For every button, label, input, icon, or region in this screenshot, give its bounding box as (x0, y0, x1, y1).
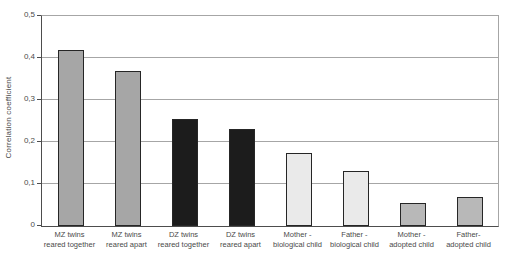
bar-4 (229, 129, 255, 226)
x-axis-label-line1: Father - (326, 230, 383, 240)
y-tick-label: 0,5 (5, 11, 35, 19)
y-tick-label: 0,3 (5, 95, 35, 103)
bar-chart: Correlation coefficient MZ twinsreared t… (0, 0, 507, 261)
bar-6 (343, 171, 369, 226)
y-tick-mark (37, 141, 41, 142)
gridline (42, 57, 498, 58)
x-axis-label-line2: reared apart (98, 240, 155, 250)
y-axis-title: Correlation coefficient (4, 48, 13, 188)
x-axis-label-line2: reared together (155, 240, 212, 250)
x-axis-label-line2: adopted child (383, 240, 440, 250)
x-axis-label: MZ twinsreared apart (98, 230, 155, 249)
bar-2 (115, 71, 141, 226)
bar-3 (172, 119, 198, 226)
x-axis-label-line1: Mother - (269, 230, 326, 240)
bar-5 (286, 153, 312, 227)
y-tick-mark (37, 15, 41, 16)
x-axis-label: DZ twinsreared apart (212, 230, 269, 249)
y-tick-mark (37, 57, 41, 58)
x-axis-label-line1: Father- (440, 230, 497, 240)
x-axis-label-line2: biological child (326, 240, 383, 250)
x-axis-label: Mother -adopted child (383, 230, 440, 249)
x-axis-label: Mother -biological child (269, 230, 326, 249)
x-axis-label-line2: reared apart (212, 240, 269, 250)
y-tick-mark (37, 225, 41, 226)
gridline (42, 183, 498, 184)
x-axis-label-line2: biological child (269, 240, 326, 250)
y-tick-mark (37, 183, 41, 184)
bar-8 (457, 197, 483, 226)
x-axis-label-line1: DZ twins (212, 230, 269, 240)
x-axis-label: Father-adopted child (440, 230, 497, 249)
y-tick-label: 0,4 (5, 53, 35, 61)
x-axis-label-line1: MZ twins (98, 230, 155, 240)
y-tick-label: 0,1 (5, 179, 35, 187)
x-axis-label-line2: adopted child (440, 240, 497, 250)
gridline (42, 99, 498, 100)
x-axis-label: MZ twinsreared together (41, 230, 98, 249)
x-axis-label-line1: DZ twins (155, 230, 212, 240)
x-axis-labels: MZ twinsreared togetherMZ twinsreared ap… (41, 230, 497, 249)
y-tick-label: 0,2 (5, 137, 35, 145)
y-tick-label: 0 (5, 221, 35, 229)
bar-7 (400, 203, 426, 226)
x-axis-label-line1: MZ twins (41, 230, 98, 240)
x-axis-label: Father -biological child (326, 230, 383, 249)
plot-area (41, 15, 499, 227)
y-tick-mark (37, 99, 41, 100)
x-axis-label: DZ twinsreared together (155, 230, 212, 249)
x-axis-label-line2: reared together (41, 240, 98, 250)
gridline (42, 141, 498, 142)
x-axis-label-line1: Mother - (383, 230, 440, 240)
bar-1 (58, 50, 84, 226)
